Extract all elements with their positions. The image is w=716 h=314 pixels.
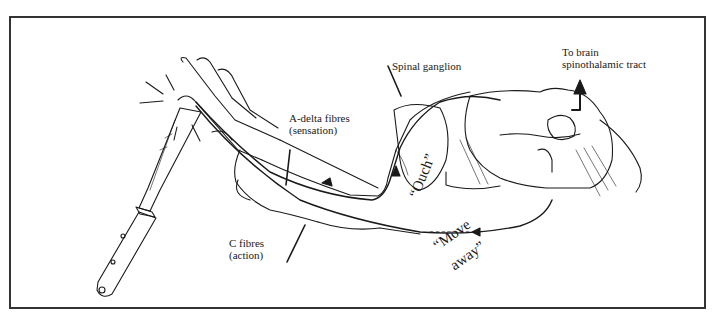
a-delta-line1: A-delta fibres xyxy=(289,112,350,124)
c-fibres-pointer-icon xyxy=(287,225,305,262)
to-brain-line2: spinothalamic tract xyxy=(562,58,646,70)
c-fibres-line2: (action) xyxy=(229,249,264,261)
spinal-ganglion-text: Spinal ganglion xyxy=(392,60,461,72)
label-a-delta-fibres: A-delta fibres (sensation) xyxy=(289,112,350,136)
nerve-fibres-icon xyxy=(196,96,552,233)
knife-icon xyxy=(97,108,201,296)
a-delta-line2: (sensation) xyxy=(289,124,350,136)
spinal-cord-icon xyxy=(446,88,641,196)
label-spinal-ganglion: Spinal ganglion xyxy=(392,60,461,72)
to-brain-line1: To brain xyxy=(562,46,646,58)
label-to-brain: To brain spinothalamic tract xyxy=(562,46,646,70)
label-c-fibres: C fibres (action) xyxy=(229,237,264,261)
c-fibres-line1: C fibres xyxy=(229,237,264,249)
